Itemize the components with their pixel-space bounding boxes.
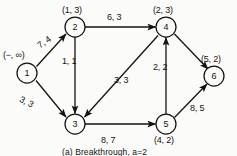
edge-5-6-label: 8, 5 bbox=[190, 104, 204, 113]
node-2-tag: (1, 3) bbox=[62, 6, 82, 15]
node-2-label: 2 bbox=[65, 23, 85, 32]
node-1-label: 1 bbox=[17, 69, 37, 78]
edge-1-3 bbox=[36, 81, 66, 118]
node-4-tag: (2, 3) bbox=[153, 6, 173, 15]
node-4-label: 4 bbox=[156, 23, 176, 32]
node-5-label: 5 bbox=[156, 120, 176, 129]
node-6-label: 6 bbox=[204, 72, 224, 81]
node-5-tag: (4, 2) bbox=[154, 136, 174, 145]
figure-caption: (a) Breakthrough, a=2 bbox=[62, 147, 147, 156]
edge-2-4-label: 6, 3 bbox=[107, 13, 121, 22]
node-1-tag: (−, ∞) bbox=[3, 51, 24, 60]
edge-5-4-label: 2, 2 bbox=[153, 63, 167, 72]
network-flow-figure: 1 2 3 4 5 6 (−, ∞) (1, 3) (2, 3) (4, 2) … bbox=[0, 0, 237, 156]
edge-3-4-label: 3, 3 bbox=[114, 76, 128, 85]
node-3-label: 3 bbox=[65, 120, 85, 129]
edge-2-3-label: 1, 1 bbox=[62, 57, 76, 66]
edge-3-5-label: 8, 7 bbox=[101, 136, 115, 145]
node-6-tag: (5, 2) bbox=[201, 55, 221, 64]
